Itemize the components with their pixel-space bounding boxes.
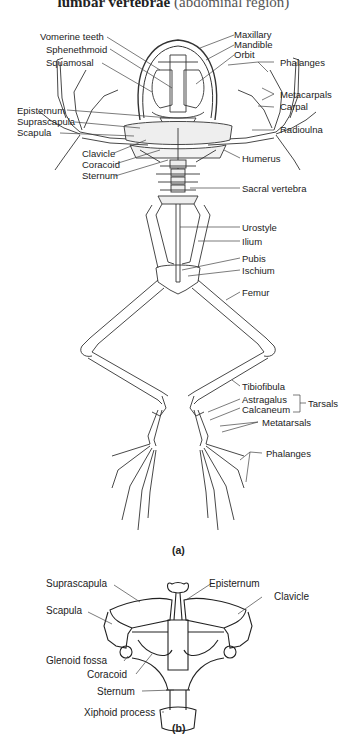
panel-label-a: (a) bbox=[172, 544, 185, 556]
label-sacral-vertebra: Sacral vertebra bbox=[242, 183, 306, 194]
label-vomerine-teeth: Vomerine teeth bbox=[40, 31, 104, 42]
label-scapula: Scapula bbox=[17, 127, 51, 138]
label-tarsals: Tarsals bbox=[308, 398, 338, 409]
label-b-episternum: Episternum bbox=[209, 578, 260, 589]
label-tibiofibula: Tibiofibula bbox=[242, 381, 285, 392]
label-pubis: Pubis bbox=[242, 253, 266, 264]
label-phalanges-fore: Phalanges bbox=[280, 57, 325, 68]
label-b-scapula: Scapula bbox=[46, 605, 82, 616]
skull-drawing bbox=[138, 40, 217, 128]
label-sphenethmoid: Sphenethmoid bbox=[46, 44, 107, 55]
label-b-xiphoid-process: Xiphoid process bbox=[84, 707, 155, 718]
label-calcaneum: Calcaneum bbox=[242, 404, 290, 415]
label-clavicle: Clavicle bbox=[82, 148, 115, 159]
label-metacarpals: Metacarpals bbox=[280, 89, 332, 100]
label-humerus: Humerus bbox=[242, 153, 281, 164]
label-femur: Femur bbox=[242, 287, 269, 298]
label-ischium: Ischium bbox=[242, 265, 275, 276]
label-metatarsals: Metatarsals bbox=[262, 417, 311, 428]
label-suprascapula: Suprascapula bbox=[17, 116, 75, 127]
label-orbit: Orbit bbox=[234, 49, 255, 60]
label-episternum: Episternum bbox=[17, 105, 65, 116]
label-b-clavicle: Clavicle bbox=[274, 591, 309, 602]
label-coracoid: Coracoid bbox=[82, 159, 120, 170]
label-carpal: Carpal bbox=[280, 101, 308, 112]
label-b-coracoid: Coracoid bbox=[87, 669, 127, 680]
left-hindlimb-drawing bbox=[81, 280, 168, 530]
label-squamosal: Squamosal bbox=[46, 57, 94, 68]
label-b-sternum: Sternum bbox=[97, 686, 135, 697]
label-ilium: Ilium bbox=[242, 236, 262, 247]
label-b-suprascapula: Suprascapula bbox=[46, 578, 107, 589]
label-urostyle: Urostyle bbox=[242, 222, 277, 233]
vertebral-column-drawing bbox=[156, 160, 200, 204]
pelvis-drawing bbox=[146, 204, 210, 294]
label-phalanges-hind: Phalanges bbox=[266, 448, 311, 459]
label-sternum: Sternum bbox=[82, 170, 118, 181]
label-b-glenoid-fossa: Glenoid fossa bbox=[46, 655, 107, 666]
panel-label-b: (b) bbox=[172, 722, 185, 734]
label-radioulna: Radioulna bbox=[280, 124, 323, 135]
